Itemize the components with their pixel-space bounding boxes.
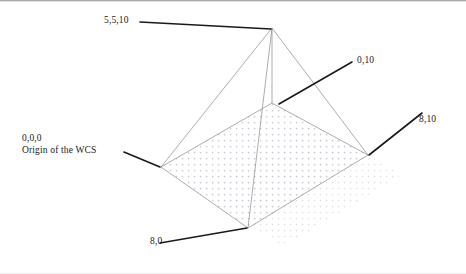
label-back: 0,10 <box>357 55 374 67</box>
pyramid-drawing <box>0 0 466 274</box>
label-origin-caption: Origin of the WCS <box>22 145 96 157</box>
pyramid-wcs-figure: 5,5,10 0,10 8,10 0,0,0 Origin of the WCS… <box>0 0 466 274</box>
leader-right <box>369 113 422 155</box>
label-origin-coords: 0,0,0 <box>22 133 42 145</box>
label-right: 8,10 <box>419 114 436 126</box>
leader-back <box>279 62 352 104</box>
label-front: 8,0 <box>150 236 162 248</box>
leader-front <box>160 228 247 243</box>
leader-apex <box>140 22 271 29</box>
label-apex: 5,5,10 <box>104 15 129 27</box>
leader-origin <box>124 152 160 167</box>
